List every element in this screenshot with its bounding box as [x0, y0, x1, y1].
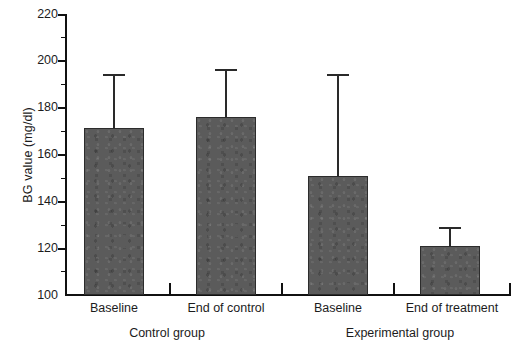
bar-experimental-baseline[interactable] — [308, 176, 368, 295]
error-bar-stem — [225, 70, 227, 118]
x-tick-label-control-baseline: Baseline — [62, 301, 166, 315]
y-tick-label: 160 — [24, 148, 58, 161]
y-tick-label: 200 — [24, 54, 58, 67]
x-axis-end-tick — [509, 283, 511, 296]
x-tick-label-experimental-baseline: Baseline — [286, 301, 390, 315]
y-major-tick — [58, 248, 66, 250]
error-bar-cap — [439, 227, 461, 229]
x-separator-tick — [169, 283, 171, 296]
bar-control-baseline[interactable] — [84, 128, 144, 295]
x-tick-label-experimental-end: End of treatment — [396, 301, 508, 315]
y-tick-label: 180 — [24, 101, 58, 114]
error-bar-cap — [327, 74, 349, 76]
y-tick-label: 120 — [24, 242, 58, 255]
y-minor-tick — [61, 131, 66, 132]
y-major-tick — [58, 201, 66, 203]
error-bar-stem — [113, 75, 115, 129]
y-tick-label: 220 — [24, 8, 58, 21]
group-label-control: Control group — [112, 326, 222, 340]
y-tick-label: 140 — [24, 195, 58, 208]
y-major-tick — [58, 154, 66, 156]
figure-caption-sliver — [0, 344, 516, 352]
y-tick-label: 100 — [24, 289, 58, 302]
y-minor-tick — [61, 37, 66, 38]
x-separator-tick — [281, 283, 283, 296]
x-tick-label-control-end: End of control — [174, 301, 278, 315]
y-major-tick — [58, 107, 66, 109]
x-separator-tick — [393, 283, 395, 296]
error-bar-stem — [337, 75, 339, 177]
error-bar-cap — [103, 74, 125, 76]
y-minor-tick — [61, 178, 66, 179]
bar-chart-figure: BG value (mg/dl) 220 200 180 160 140 120… — [0, 0, 516, 352]
y-minor-tick — [61, 225, 66, 226]
bar-experimental-end[interactable] — [420, 246, 480, 295]
y-major-tick — [58, 14, 66, 16]
y-minor-tick — [61, 84, 66, 85]
y-axis-tick-labels: 220 200 180 160 140 120 100 — [22, 0, 58, 352]
error-bar-stem — [449, 228, 451, 247]
y-major-tick — [58, 60, 66, 62]
y-minor-tick — [61, 271, 66, 272]
bar-control-end[interactable] — [196, 117, 256, 295]
error-bar-cap — [215, 69, 237, 71]
group-label-experimental: Experimental group — [330, 326, 470, 340]
